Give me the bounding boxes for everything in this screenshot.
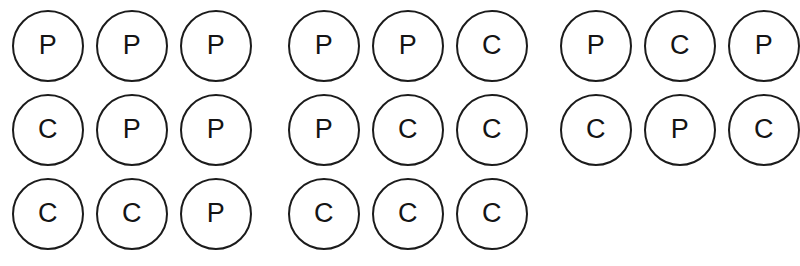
counter-circle[interactable]: P: [180, 10, 252, 82]
counter-label: P: [123, 32, 142, 59]
counter-group-2: PPCPCCCCC: [288, 10, 528, 250]
counter-circle[interactable]: C: [288, 178, 360, 250]
counter-circle[interactable]: P: [288, 10, 360, 82]
counter-circle[interactable]: P: [288, 94, 360, 166]
counter-row: PPC: [288, 10, 528, 82]
counter-row: PPP: [12, 10, 252, 82]
counter-label: C: [398, 116, 418, 143]
counter-group-1: PPPCPPCCP: [12, 10, 252, 250]
counter-circle[interactable]: P: [728, 10, 800, 82]
counter-label: C: [122, 200, 142, 227]
counter-label: C: [38, 200, 58, 227]
counter-circle[interactable]: P: [180, 94, 252, 166]
counter-label: P: [399, 32, 418, 59]
counter-label: C: [38, 116, 58, 143]
counter-label: C: [398, 200, 418, 227]
counter-label: C: [754, 116, 774, 143]
counter-circle[interactable]: P: [12, 10, 84, 82]
counter-circle[interactable]: C: [372, 94, 444, 166]
counter-circle[interactable]: P: [372, 10, 444, 82]
counter-label: P: [671, 116, 690, 143]
counter-row: CCP: [12, 178, 252, 250]
counter-label: C: [586, 116, 606, 143]
counter-row: CCC: [288, 178, 528, 250]
counter-label: P: [587, 32, 606, 59]
counter-label: P: [315, 32, 334, 59]
counter-circle[interactable]: P: [96, 10, 168, 82]
counter-row: CPC: [560, 94, 800, 166]
counter-label: P: [755, 32, 774, 59]
counter-label: P: [123, 116, 142, 143]
counter-label: P: [207, 116, 226, 143]
counter-circle[interactable]: C: [560, 94, 632, 166]
counter-label: C: [670, 32, 690, 59]
counter-label: P: [207, 32, 226, 59]
counter-circle[interactable]: C: [456, 94, 528, 166]
counter-label: C: [482, 200, 502, 227]
counter-circle[interactable]: P: [96, 94, 168, 166]
counter-circle[interactable]: C: [12, 178, 84, 250]
counter-circle[interactable]: C: [372, 178, 444, 250]
counter-circle[interactable]: C: [456, 10, 528, 82]
counter-circle[interactable]: C: [96, 178, 168, 250]
counter-circle[interactable]: C: [728, 94, 800, 166]
counter-label: P: [315, 116, 334, 143]
counter-circle[interactable]: P: [644, 94, 716, 166]
counter-label: C: [314, 200, 334, 227]
counter-circle[interactable]: C: [456, 178, 528, 250]
counter-label: P: [207, 200, 226, 227]
counter-row: CPP: [12, 94, 252, 166]
counter-circle[interactable]: C: [644, 10, 716, 82]
counter-row: PCC: [288, 94, 528, 166]
counter-label: P: [39, 32, 58, 59]
counter-circle[interactable]: C: [12, 94, 84, 166]
counter-circle[interactable]: P: [180, 178, 252, 250]
counter-row: PCP: [560, 10, 800, 82]
counter-group-3: PCPCPC: [560, 10, 800, 166]
counter-circle[interactable]: P: [560, 10, 632, 82]
counter-label: C: [482, 116, 502, 143]
counter-label: C: [482, 32, 502, 59]
